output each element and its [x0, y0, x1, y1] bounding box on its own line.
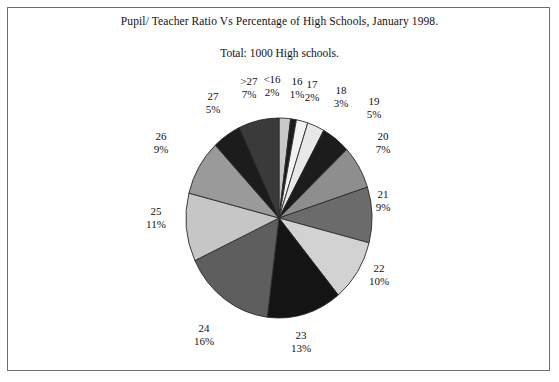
slice-label-category-20: 20	[353, 130, 413, 143]
slice-label-percent-27: 5%	[183, 103, 243, 116]
slice-label-category-19: 19	[344, 95, 404, 108]
slice-label-category-23: 23	[271, 329, 331, 342]
slice-label-percent-19: 5%	[344, 108, 404, 121]
slice-label-category-gt27: >27	[219, 75, 279, 88]
slice-label-25: 2511%	[126, 205, 186, 230]
slice-label-percent-23: 13%	[271, 342, 331, 355]
pie-chart-area: <162%161%172%183%195%207%219%2210%2313%2…	[0, 0, 559, 382]
slice-label-23: 2313%	[271, 329, 331, 354]
slice-label-gt27: >277%	[219, 75, 279, 100]
slice-label-percent-22: 10%	[349, 275, 409, 288]
slice-label-category-26: 26	[131, 130, 191, 143]
slice-label-category-25: 25	[126, 205, 186, 218]
slice-label-percent-21: 9%	[353, 201, 413, 214]
pie-chart-svg	[0, 0, 559, 382]
slice-label-percent-24: 16%	[174, 335, 234, 348]
slice-label-percent-25: 11%	[126, 218, 186, 231]
slice-label-category-22: 22	[349, 262, 409, 275]
slice-label-percent-gt27: 7%	[219, 88, 279, 101]
slice-label-19: 195%	[344, 95, 404, 120]
slice-label-category-21: 21	[353, 188, 413, 201]
slice-label-percent-26: 9%	[131, 143, 191, 156]
slice-label-percent-20: 7%	[353, 143, 413, 156]
slice-label-21: 219%	[353, 188, 413, 213]
slice-label-category-24: 24	[174, 322, 234, 335]
slice-label-24: 2416%	[174, 322, 234, 347]
slice-label-20: 207%	[353, 130, 413, 155]
chart-page: Pupil/ Teacher Ratio Vs Percentage of Hi…	[0, 0, 559, 382]
slice-label-22: 2210%	[349, 262, 409, 287]
slice-label-26: 269%	[131, 130, 191, 155]
